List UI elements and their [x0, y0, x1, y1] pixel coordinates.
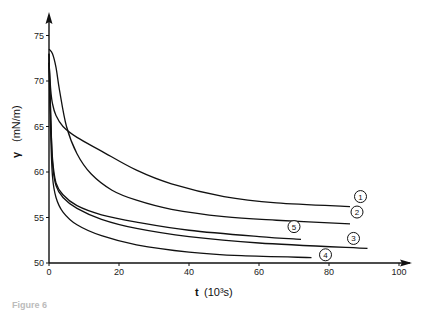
curve-markers: 12345 — [288, 191, 367, 261]
curve-1 — [49, 63, 350, 207]
curve-label-4: 4 — [323, 251, 328, 260]
y-tick-label: 65 — [34, 122, 44, 132]
curve-label-2: 2 — [355, 208, 360, 217]
y-axis-symbol: γ — [10, 151, 22, 158]
x-tick-label: 20 — [114, 267, 124, 277]
y-tick-label: 70 — [34, 76, 44, 86]
x-tick-label: 100 — [391, 267, 406, 277]
x-axis-symbol: t — [195, 286, 199, 298]
figure-caption: Figure 6 — [12, 300, 47, 310]
y-tick-label: 50 — [34, 258, 44, 268]
x-tick-label: 40 — [184, 267, 194, 277]
curve-label-1: 1 — [358, 193, 363, 202]
curve-5 — [49, 54, 301, 240]
curve-3 — [49, 54, 368, 249]
surface-tension-chart: 020406080100 505560657075 12345 t (10³s)… — [0, 0, 426, 311]
y-ticks: 505560657075 — [34, 31, 49, 269]
curve-label-3: 3 — [351, 234, 356, 243]
x-axis-unit: (10³s) — [204, 286, 233, 298]
curve-label-5: 5 — [292, 223, 297, 232]
y-tick-label: 60 — [34, 167, 44, 177]
y-axis-unit: (mN/m) — [10, 105, 22, 142]
curves — [49, 49, 368, 257]
curve-2 — [49, 49, 350, 224]
y-axis-title: γ (mN/m) — [10, 105, 22, 158]
x-tick-label: 80 — [324, 267, 334, 277]
x-axis-title: t (10³s) — [195, 286, 233, 298]
y-tick-label: 75 — [34, 31, 44, 41]
x-tick-label: 60 — [254, 267, 264, 277]
curve-4 — [49, 63, 312, 258]
axes — [46, 12, 413, 267]
y-tick-label: 55 — [34, 213, 44, 223]
x-tick-label: 0 — [46, 267, 51, 277]
x-ticks: 020406080100 — [46, 263, 406, 277]
